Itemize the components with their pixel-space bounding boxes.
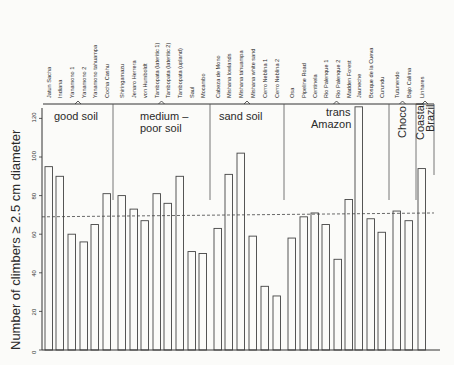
bar-chart: 020406080100120 Number of climbers ≥ 2.5…: [0, 0, 454, 365]
site-labels: Jatun SachaIndianaYanamono 1Yanamono 2Ya…: [46, 43, 425, 98]
bar: [261, 286, 269, 350]
bar: [176, 176, 184, 350]
y-axis: 020406080100120: [31, 112, 42, 354]
bar: [249, 236, 257, 350]
site-label: Tambopata (lateritic 2): [165, 43, 171, 98]
site-label: Jatun Sacha: [46, 66, 52, 98]
site-label: Tambopata (lateritic 1): [154, 43, 160, 98]
bar: [141, 221, 149, 350]
bar: [56, 176, 64, 350]
site-label: Rio Palenque 1: [323, 60, 329, 98]
y-tick-label: 0: [31, 350, 37, 354]
y-tick-label: 40: [31, 269, 37, 276]
site-label: Bosque de la Cueva: [368, 47, 374, 98]
y-axis-label: Number of climbers ≥ 2.5 cm diameter: [8, 129, 23, 350]
site-label: von Humboldt: [142, 63, 148, 98]
bar: [322, 225, 330, 350]
bar: [130, 209, 138, 350]
site-label: Cabeza de Mono: [215, 55, 221, 98]
site-label: Cerro Neblina 2: [274, 59, 280, 98]
site-label: Yanamono 1: [69, 67, 75, 98]
bar: [164, 203, 172, 350]
site-label: Yanamono 2: [81, 67, 87, 98]
site-label: Linhares: [419, 76, 425, 98]
bar: [378, 232, 386, 350]
bar: [214, 228, 222, 350]
y-tick-label: 60: [31, 231, 37, 238]
bar: [300, 217, 308, 350]
group-label: poor soil: [140, 122, 182, 134]
site-label: Yanamono tahuampa: [92, 44, 98, 98]
bar: [334, 259, 342, 350]
group-label: sand soil: [219, 110, 262, 122]
bar: [80, 242, 88, 350]
bar: [188, 252, 196, 350]
site-label: Mishana white sand: [250, 49, 256, 98]
site-label: Saul: [189, 87, 195, 98]
y-tick-label: 100: [31, 150, 37, 161]
bar: [393, 211, 401, 350]
bars: [45, 107, 426, 350]
bar: [405, 221, 413, 350]
bar: [345, 199, 353, 350]
bar: [225, 174, 233, 350]
bar: [237, 153, 245, 350]
site-label: Madden Forest: [346, 60, 352, 98]
y-tick-label: 20: [31, 308, 37, 315]
bar: [355, 107, 363, 350]
y-tick-label: 80: [31, 192, 37, 199]
site-label: Centinela: [312, 73, 318, 98]
group-label: Choco: [396, 106, 408, 138]
site-label: Mishana lowlands: [226, 53, 232, 98]
bar: [45, 167, 53, 350]
site-label: Bajo Calima: [406, 67, 412, 98]
site-label: Cerro Neblina 1: [262, 59, 268, 98]
bar: [311, 213, 319, 350]
site-label: Curundu: [379, 77, 385, 98]
bar: [273, 296, 281, 350]
site-label: Shiringamazu: [119, 64, 125, 98]
site-label: Jauneche: [356, 74, 362, 98]
bar: [288, 238, 296, 350]
bar: [68, 234, 76, 350]
group-label: medium –: [140, 110, 189, 122]
bar: [199, 254, 207, 351]
bar: [103, 194, 111, 350]
group-label: Coastal: [414, 103, 426, 140]
bar: [367, 219, 375, 350]
site-label: Jenaro Herrera: [131, 59, 137, 98]
group-brackets: good soilpoor soilmedium –sand soilAmazo…: [43, 101, 436, 200]
site-label: Rio Palenque 2: [335, 60, 341, 98]
site-label: Tambopata (upland): [177, 48, 183, 98]
site-label: Cocha Cashu: [104, 64, 110, 98]
site-label: Tutunendo: [394, 71, 400, 98]
mean-reference-line: [42, 213, 434, 217]
bar: [118, 196, 126, 350]
site-label: Mocambo: [200, 73, 206, 98]
site-label: Osa: [289, 87, 295, 98]
group-label: trans: [326, 106, 351, 118]
y-tick-label: 120: [31, 112, 37, 123]
bar: [153, 194, 161, 350]
site-label: Indiana: [57, 79, 63, 98]
bar: [418, 169, 426, 350]
group-label: good soil: [54, 110, 98, 122]
site-label: Pipeline Road: [301, 63, 307, 98]
bar: [91, 225, 99, 350]
group-label: Amazon: [311, 118, 351, 130]
site-label: Mishana tahuampa: [238, 50, 244, 98]
